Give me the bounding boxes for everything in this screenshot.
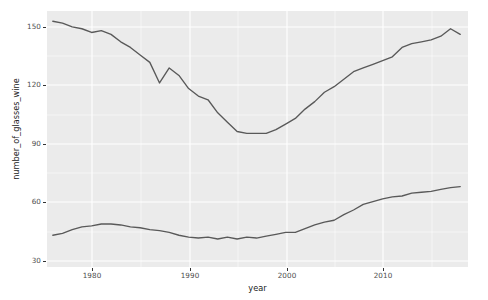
x-tick-mark [383,268,384,271]
x-tick-mark [92,268,93,271]
x-tick-label: 2000 [267,271,307,280]
x-tick-label: 1990 [170,271,210,280]
x-tick-mark [190,268,191,271]
x-tick-mark [287,268,288,271]
x-axis-title: year [47,283,468,293]
chart-figure: 150 120 90 60 30 1980 1990 2000 2010 yea… [0,0,488,300]
x-tick-label: 1980 [72,271,112,280]
y-axis-title: number_of_glasses_wine [11,1,21,257]
x-axis-tick-labels: 1980 1990 2000 2010 [0,0,488,300]
x-tick-label: 2010 [363,271,403,280]
